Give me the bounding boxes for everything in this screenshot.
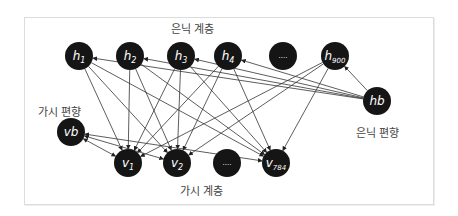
edge-hb-h900 (345, 66, 368, 91)
node-h900: h900 (321, 42, 349, 70)
edge-hb-h4 (241, 60, 363, 97)
edge-h4-v2 (183, 69, 222, 151)
visible-bias-label: 가시 편향 (38, 103, 82, 119)
node-h2: h2 (116, 42, 144, 70)
node-vb: vb (57, 118, 85, 146)
node-h1: h1 (65, 42, 93, 70)
node-h3: h3 (167, 42, 195, 70)
node-v784: v784 (262, 149, 290, 177)
edge-h4-v784 (234, 69, 271, 150)
nodes: h1h2h3h4....h900v1v2....v784hbvb (57, 42, 391, 177)
edge-h900-v2 (189, 64, 324, 155)
edge-h2-v2 (136, 69, 172, 150)
node-label: .... (223, 159, 232, 167)
node-h4: h4 (214, 42, 242, 70)
node-hdots: .... (269, 42, 297, 70)
edge-h1-v2 (88, 66, 167, 152)
node-v1: v1 (114, 149, 142, 177)
edge-vb-v1 (83, 139, 115, 157)
node-hb: hb (363, 87, 391, 115)
hidden-bias-label: 은닉 편향 (356, 124, 400, 140)
node-label: .... (279, 52, 288, 60)
node-label: hb (369, 94, 385, 108)
node-label: vb (64, 125, 79, 139)
node-vdots: .... (213, 149, 241, 177)
edge-h3-v784 (190, 66, 266, 152)
edges (83, 58, 367, 161)
node-v2: v2 (163, 149, 191, 177)
edge-h2-v784 (141, 64, 264, 154)
visible-layer-label: 가시 계층 (180, 182, 224, 198)
hidden-layer-label: 은닉 계층 (171, 20, 215, 36)
